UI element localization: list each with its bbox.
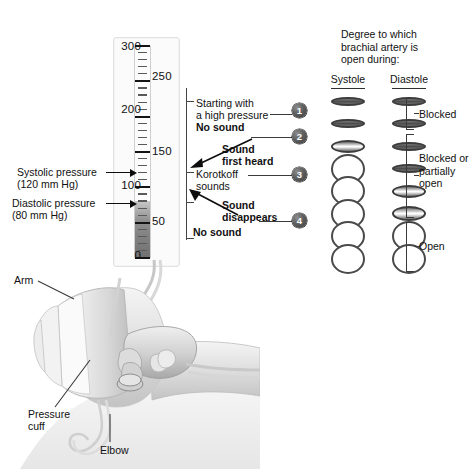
tick-200 [135,116,150,118]
step-number-3: 3 [292,167,307,182]
systolic-label-line1: Systolic pressure [17,166,97,178]
tick-230 [138,94,147,95]
arm-cuff-drawing [0,276,260,469]
diastolic-pressure-label: Diastolic pressure (80 mm Hg) [12,197,95,221]
artery-ring [331,119,365,128]
diastolic-arrow-head [130,200,137,208]
tick-130 [138,165,147,166]
annotation-4-leader [259,221,292,222]
artery-ring [331,140,365,153]
brace-label-open: Open [419,240,445,253]
annotation-3-leader [248,175,292,176]
annotation-1-line2: a high pressure [196,109,268,121]
systolic-label-line2: (120 mm Hg) [17,178,97,190]
tick-280 [138,59,147,60]
annotation-2-leader [251,137,292,138]
annotation-1-line1: Starting with [196,97,254,109]
label-arm-leader [36,278,78,302]
tick-70 [138,208,147,209]
right-title-line1: Degree to which [341,28,418,41]
mercury-tube [134,46,151,258]
column-rule-systole [331,88,365,89]
artery-systole-row3-slit [331,140,365,153]
diastolic-label-line2: (80 mm Hg) [12,209,95,221]
systolic-pressure-label: Systolic pressure (120 mm Hg) [17,166,97,190]
annotation-3-line1: Korotkoff [196,168,238,180]
right-title-line3: open during: [341,53,418,66]
column-rule-diastole [392,88,426,89]
tick-190 [138,123,147,124]
annotation-2-arrow [186,136,256,171]
tick-180 [138,130,147,131]
tick-80 [138,200,147,201]
tick-60 [138,215,147,216]
diagram-canvas: 300 200 100 0 250 150 50 Systolic pressu… [0,0,473,469]
tick-250 [135,80,150,82]
right-title-line2: brachial artery is [341,41,418,54]
brace-partially-open [406,134,414,218]
tick-170 [138,137,147,138]
scale-number-50: 50 [152,216,165,228]
systolic-arrow-line [106,172,132,173]
label-pressure-cuff: Pressure cuff [28,408,70,432]
step-number-2: 2 [292,129,307,144]
brace-partial-line3: open [419,177,469,190]
label-pressure-cuff-leader [50,358,92,410]
annotation-4-line3: No sound [193,226,241,238]
tick-90 [138,193,147,194]
scale-number-300: 300 [113,41,141,53]
artery-systole-row1-closed [331,97,365,106]
tick-120 [138,172,147,173]
brace-partial-line2: partially [419,165,469,178]
tick-30 [138,236,147,237]
tick-260 [138,73,147,74]
tick-20 [138,243,147,244]
scale-number-200: 200 [113,104,141,116]
brace-open [406,222,414,272]
arm-cuff-illustration [0,276,260,469]
step-number-1: 1 [292,103,307,118]
column-header-diastole: Diastole [378,73,440,85]
scale-number-250: 250 [152,71,172,83]
tick-50 [135,222,150,224]
artery-ring [331,244,365,274]
brace-label-blocked: Blocked [419,108,456,121]
brace-blocked [406,98,414,130]
scale-number-100: 100 [113,180,141,192]
annotation-1-leader [270,114,292,115]
label-elbow-leader [106,414,114,444]
artery-systole-row8-open [331,244,365,274]
systolic-arrow-head [130,169,137,177]
tick-240 [138,87,147,88]
annotation-4-arrow [186,188,246,218]
label-pressure-cuff-line2: cuff [28,420,70,432]
artery-ring [331,97,365,106]
tick-270 [138,66,147,67]
tick-160 [138,144,147,145]
label-elbow: Elbow [100,444,129,456]
brace-partial-line1: Blocked or [419,152,469,165]
diastolic-arrow-line [106,203,132,204]
annotation-1-line3: No sound [196,121,244,133]
brace-label-partial: Blocked or partially open [419,152,469,190]
artery-systole-row2-closed [331,119,365,128]
step-number-4: 4 [292,213,307,228]
tick-140 [138,158,147,159]
tick-40 [138,229,147,230]
diastolic-label-line1: Diastolic pressure [12,197,95,209]
scale-number-150: 150 [152,146,172,158]
right-panel-title: Degree to which brachial artery is open … [341,28,418,66]
tick-150 [135,151,150,153]
label-arm: Arm [14,274,33,286]
column-header-systole: Systole [320,73,376,85]
